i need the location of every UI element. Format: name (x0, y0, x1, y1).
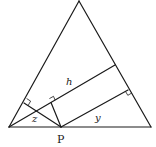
triangle-left-side (9, 1, 79, 127)
triangle-right-side (79, 1, 151, 127)
label-y: y (94, 112, 101, 123)
label-z: z (31, 113, 38, 124)
label-h: h (66, 76, 72, 87)
right-angle-mark-altitude (49, 96, 55, 100)
geometry-diagram: h y z P (0, 0, 156, 147)
label-point-p: P (57, 133, 65, 146)
